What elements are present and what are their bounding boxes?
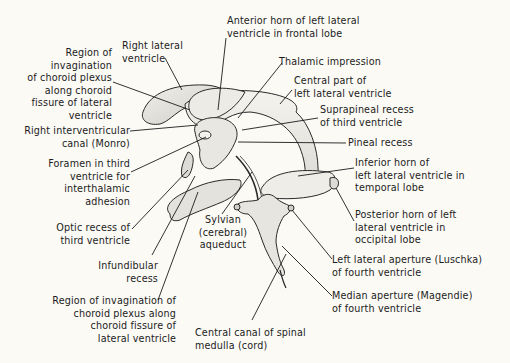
label-right-lateral-ventricle: Right lateral ventricle xyxy=(122,40,183,65)
label-median-aperture: Median aperture (Magendie) of fourth ven… xyxy=(332,290,473,315)
label-region-invagination-lower: Region of invagination of choroid plexus… xyxy=(4,295,176,345)
label-thalamic-impression: Thalamic impression xyxy=(279,56,381,69)
ventricles-diagram: Anterior horn of left lateral ventricle … xyxy=(0,0,510,363)
label-infundibular-recess: Infundibular recess xyxy=(60,260,158,285)
label-right-interventricular-canal: Right interventricular canal (Monro) xyxy=(4,125,130,150)
label-anterior-horn: Anterior horn of left lateral ventricle … xyxy=(227,15,360,40)
label-region-invagination-upper: Region of invagination of choroid plexus… xyxy=(4,47,112,123)
label-central-part: Central part of left lateral ventricle xyxy=(294,75,392,100)
label-suprapineal-recess: Suprapineal recess of third ventricle xyxy=(320,104,414,129)
label-posterior-horn: Posterior horn of left lateral ventricle… xyxy=(355,209,456,247)
label-inferior-horn: Inferior horn of left lateral ventricle … xyxy=(355,157,465,195)
label-left-lateral-aperture: Left lateral aperture (Luschka) of fourt… xyxy=(332,254,482,279)
label-optic-recess: Optic recess of third ventricle xyxy=(4,222,130,247)
figure-caption xyxy=(20,357,500,363)
label-pineal-recess: Pineal recess xyxy=(348,137,413,150)
label-foramen-third-ventricle: Foramen in third ventricle for interthal… xyxy=(4,158,130,208)
label-central-canal: Central canal of spinal medulla (cord) xyxy=(195,327,306,352)
label-sylvian-aqueduct: Sylvian (cerebral) aqueduct xyxy=(190,214,256,252)
